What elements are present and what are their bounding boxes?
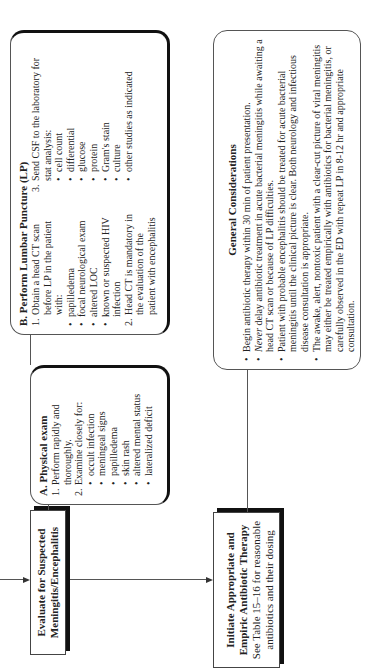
physical-exam-item-2: 2. Examine closely for: bbox=[73, 376, 85, 496]
list-item: Patient with probable encephalitis shoul… bbox=[276, 39, 311, 361]
list-item: meningeal signs bbox=[96, 376, 108, 485]
list-item: Gram's stain bbox=[100, 42, 112, 181]
list-item: known or suspected HIV infection bbox=[100, 206, 123, 326]
spine-line bbox=[69, 579, 207, 580]
initiate-title-line1: Initiate Appropriate and bbox=[224, 513, 237, 667]
initiate-title-line2: Empiric Antibiotic Therapy bbox=[237, 513, 250, 667]
list-item: lateralized deficit bbox=[143, 376, 155, 485]
lumbar-puncture-box: B. Perform Lumbar Puncture (LP) 1. Obtai… bbox=[10, 30, 170, 335]
evaluate-title-line1: Evaluate for Suspected bbox=[35, 511, 48, 654]
evaluate-box: Evaluate for Suspected Meningitis/Enceph… bbox=[30, 510, 66, 655]
initiate-note-line1: See Table 15–16 for reasonable bbox=[250, 513, 263, 667]
evaluate-title-line2: Meningitis/Encephalitis bbox=[48, 511, 61, 654]
list-item: other studies as indicated bbox=[123, 42, 135, 181]
physical-exam-box: A. Physical exam 1. Perform rapidly and … bbox=[30, 365, 170, 505]
list-item: occult infection bbox=[85, 376, 97, 485]
list-item: papilledema bbox=[65, 206, 77, 326]
entry-line bbox=[0, 579, 24, 580]
list-item: culture bbox=[111, 42, 123, 181]
list-item: The awake, alert, nontoxic patient with … bbox=[311, 39, 357, 361]
list-item: focal neurological exam bbox=[76, 206, 88, 326]
list-item: papilledema bbox=[108, 376, 120, 485]
connector-initiate-to-general bbox=[247, 369, 248, 512]
general-considerations-list: Begin antibiotic therapy within 30 min o… bbox=[241, 39, 357, 361]
list-item: altered LOC bbox=[88, 206, 100, 326]
general-considerations-title: General Considerations bbox=[226, 39, 239, 361]
list-item: Never delay antibiotic treatment in acut… bbox=[253, 39, 276, 361]
physical-exam-bullets: occult infection meningeal signs papille… bbox=[85, 376, 155, 496]
list-item: protein bbox=[88, 42, 100, 181]
list-item: differential bbox=[65, 42, 77, 181]
physical-exam-title: A. Physical exam bbox=[37, 376, 50, 496]
lumbar-puncture-title: B. Perform Lumbar Puncture (LP) bbox=[17, 41, 30, 326]
list-item: cell count bbox=[53, 42, 65, 181]
entry-arrow-icon bbox=[23, 577, 30, 583]
lp-ct-indications: papilledema focal neurological exam alte… bbox=[65, 206, 123, 326]
physical-exam-item-1: 1. Perform rapidly and thoroughly. bbox=[50, 376, 73, 496]
lp-item-1: 1. Obtain a head CT scan before LP in th… bbox=[30, 206, 65, 326]
list-item: altered mental status bbox=[131, 376, 143, 485]
connector-a-to-b bbox=[30, 334, 31, 365]
list-item: Begin antibiotic therapy within 30 min o… bbox=[241, 39, 253, 361]
lp-item-3: 3. Send CSF to the laboratory for stat a… bbox=[30, 42, 53, 192]
flowchart-canvas: Evaluate for Suspected Meningitis/Enceph… bbox=[0, 0, 373, 671]
csf-analysis-list: cell count differential glucose protein … bbox=[53, 42, 134, 192]
spine-arrow-icon bbox=[206, 577, 213, 583]
list-item: skin rash bbox=[120, 376, 132, 485]
list-item: glucose bbox=[76, 42, 88, 181]
initiate-therapy-box: Initiate Appropriate and Empiric Antibio… bbox=[213, 512, 280, 668]
initiate-note-line2: antibiotics and their dosing bbox=[263, 513, 276, 667]
general-considerations-box: General Considerations Begin antibiotic … bbox=[213, 30, 361, 370]
lp-item-2: 2. Head CT is mandatory in the evaluatio… bbox=[123, 206, 158, 326]
